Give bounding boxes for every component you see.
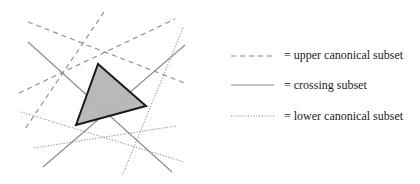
legend-label-upper-canonical: = upper canonical subset	[284, 48, 403, 62]
canonical-subsets-diagram	[0, 0, 420, 184]
legend-swatches	[231, 56, 274, 116]
legend-label-crossing: = crossing subset	[284, 78, 367, 92]
query-triangle	[76, 64, 146, 125]
lower-canonical-line	[21, 112, 184, 162]
legend-label-lower-canonical: = lower canonical subset	[284, 109, 403, 123]
lower-canonical-line	[34, 126, 176, 148]
